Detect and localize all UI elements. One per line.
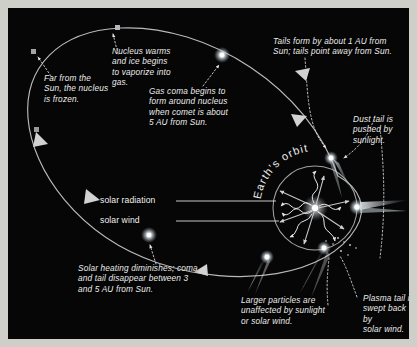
annotation-dust-tail: Dust tail is pushed by sunlight. [353, 114, 409, 145]
sun-icon [302, 195, 328, 221]
annotation-nucleus-warms: Nucleus warms and ice begins to vaporize… [112, 46, 194, 88]
comet-coma-icon [214, 47, 230, 63]
label-solar-radiation: solar radiation [100, 195, 155, 205]
comet-coma-icon [141, 227, 157, 243]
comet-nucleus-icon [34, 127, 39, 132]
comet-nucleus-icon [115, 25, 120, 30]
comet-tails-icon [349, 199, 409, 215]
figure-frame: Far from the Sun, the nucleus is frozen.… [0, 0, 417, 347]
comet-tails-icon [248, 250, 274, 294]
label-solar-wind: solar wind [100, 215, 140, 225]
annotation-gas-coma: Gas coma begins to form around nucleus w… [149, 86, 251, 128]
diagram-plate: Far from the Sun, the nucleus is frozen.… [8, 8, 409, 339]
callout-leader-lines [176, 201, 279, 221]
comet-orbit-path [28, 28, 362, 277]
comet-tails-icon [324, 151, 353, 198]
annotation-plasma-tail: Plasma tail is swept back by solar wind. [363, 293, 409, 335]
annotation-tails-form: Tails form by about 1 AU from Sun; tails… [273, 36, 401, 57]
comet-nucleus-icon [31, 49, 36, 54]
annotation-larger-particles: Larger particles are unaffected by sunli… [241, 295, 345, 326]
annotation-solar-heating-diminishes: Solar heating diminishes; coma and tail … [78, 263, 234, 294]
